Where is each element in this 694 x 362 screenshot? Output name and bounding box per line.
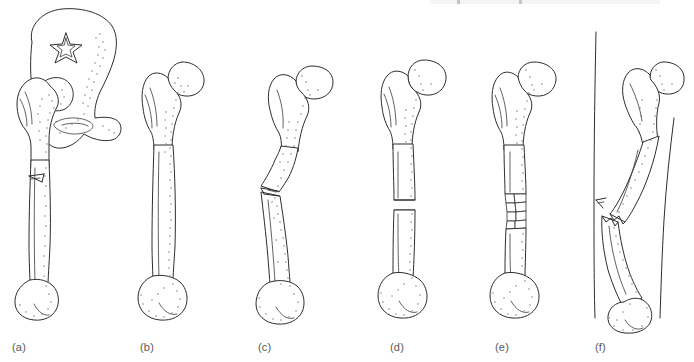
caption-d: (d) bbox=[390, 341, 404, 353]
femur-condyles-c bbox=[256, 281, 304, 325]
femur-shaft-lower-e bbox=[505, 228, 526, 278]
panel-f: (f) bbox=[580, 0, 692, 330]
caption-e: (e) bbox=[495, 341, 509, 353]
transverse-fracture-d bbox=[394, 200, 415, 210]
skin-wound-f bbox=[596, 198, 606, 208]
panel-a-drawing bbox=[4, 0, 136, 330]
femur-condyles-b bbox=[138, 275, 187, 320]
caption-c: (c) bbox=[258, 341, 271, 353]
femur-shaft-b bbox=[152, 145, 175, 282]
panel-b-drawing bbox=[128, 0, 238, 330]
comminuted-fragments-e bbox=[505, 194, 526, 229]
femur-shaft-upper-f bbox=[610, 136, 659, 222]
femur-shaft-upper-e bbox=[504, 145, 526, 194]
caption-a: (a) bbox=[12, 341, 26, 353]
panel-a: (a) bbox=[4, 0, 136, 330]
panel-f-drawing bbox=[580, 0, 692, 330]
panel-c-drawing bbox=[248, 0, 360, 330]
panel-e-drawing bbox=[482, 0, 592, 330]
femur-shaft-lower-f bbox=[602, 216, 642, 308]
panel-d-drawing bbox=[368, 0, 478, 330]
caption-b: (b) bbox=[140, 341, 154, 353]
skin-contour-left bbox=[594, 32, 596, 318]
femur-shaft-upper-c bbox=[261, 146, 298, 192]
figure-fracture-types: (a) bbox=[0, 0, 694, 362]
femur-condyles-e bbox=[490, 272, 539, 318]
femur-shaft-lower-d bbox=[393, 210, 415, 278]
caption-f: (f) bbox=[595, 341, 606, 353]
panel-d: (d) bbox=[368, 0, 478, 330]
femur-condyles-a bbox=[15, 279, 58, 320]
panel-b: (b) bbox=[128, 0, 238, 330]
skin-contour-right bbox=[660, 118, 674, 318]
panel-c: (c) bbox=[248, 0, 360, 330]
panel-e: (e) bbox=[482, 0, 592, 330]
